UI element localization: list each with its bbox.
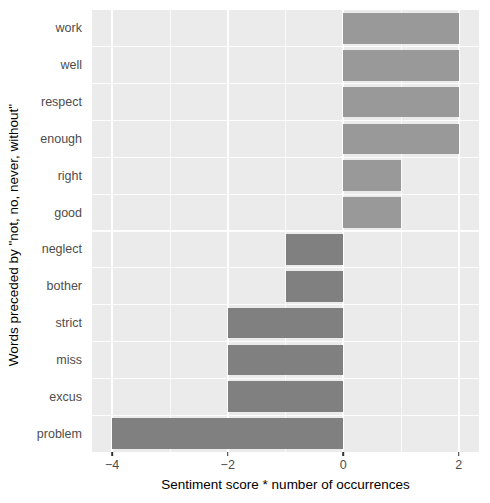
bar-strict xyxy=(228,308,344,339)
x-tick-mark xyxy=(227,452,229,456)
x-axis-tick-labels: −4−202 xyxy=(92,452,479,478)
x-tick-label-0: 0 xyxy=(340,458,347,472)
bar-well xyxy=(343,50,459,81)
y-tick-label-bother: bother xyxy=(24,279,82,293)
x-tick-label-2: 2 xyxy=(455,458,462,472)
plot-panel xyxy=(92,10,479,452)
bar-neglect xyxy=(286,234,344,265)
x-tick-mark xyxy=(458,452,460,456)
y-tick-label-miss: miss xyxy=(24,353,82,367)
y-tick-label-good: good xyxy=(24,206,82,220)
y-tick-label-respect: respect xyxy=(24,95,82,109)
bar-respect xyxy=(343,87,459,118)
x-axis-title: Sentiment score * number of occurrences xyxy=(92,477,479,492)
bar-good xyxy=(343,197,401,228)
y-axis-tick-labels: workwellrespectenoughrightgoodneglectbot… xyxy=(24,10,82,452)
bar-bother xyxy=(286,271,344,302)
y-tick-label-enough: enough xyxy=(24,132,82,146)
gridline-major-vertical xyxy=(111,10,113,452)
y-tick-label-neglect: neglect xyxy=(24,242,82,256)
x-tick-label--2: −2 xyxy=(221,458,235,472)
y-tick-label-well: well xyxy=(24,58,82,72)
bar-chart: Words preceded by "not, no, never, witho… xyxy=(0,0,490,503)
bar-enough xyxy=(343,124,459,155)
y-tick-label-excus: excus xyxy=(24,390,82,404)
bar-right xyxy=(343,160,401,191)
x-tick-mark xyxy=(111,452,113,456)
y-tick-label-problem: problem xyxy=(24,427,82,441)
bar-excus xyxy=(228,381,344,412)
y-tick-label-right: right xyxy=(24,169,82,183)
bar-work xyxy=(343,13,459,44)
y-axis-title: Words preceded by "not, no, never, witho… xyxy=(3,4,25,466)
x-tick-label--4: −4 xyxy=(105,458,119,472)
bar-miss xyxy=(228,345,344,376)
y-tick-label-work: work xyxy=(24,21,82,35)
bar-problem xyxy=(112,418,343,449)
gridline-minor-vertical xyxy=(170,10,171,452)
y-tick-label-strict: strict xyxy=(24,316,82,330)
x-tick-mark xyxy=(342,452,344,456)
